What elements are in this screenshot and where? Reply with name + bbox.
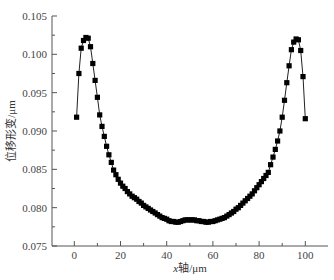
y-tick-label: 0.095 <box>22 87 47 99</box>
square-marker-icon <box>113 172 118 177</box>
square-marker-icon <box>76 71 81 76</box>
square-marker-icon <box>284 80 289 85</box>
x-tick-label: 80 <box>254 249 266 261</box>
x-tick-label: 60 <box>207 249 219 261</box>
square-marker-icon <box>106 152 111 157</box>
chart-root: 0.0750.0800.0850.0900.0950.1000.105 0204… <box>0 0 334 280</box>
square-marker-icon <box>102 134 107 139</box>
x-tick-label: 100 <box>297 249 314 261</box>
square-marker-icon <box>296 37 301 42</box>
square-marker-icon <box>111 168 116 173</box>
square-marker-icon <box>93 78 98 83</box>
square-marker-icon <box>298 48 303 53</box>
line-chart: 0.0750.0800.0850.0900.0950.1000.105 0204… <box>0 0 334 280</box>
y-tick-label: 0.100 <box>22 48 47 60</box>
square-marker-icon <box>97 112 102 117</box>
square-marker-icon <box>273 147 278 152</box>
square-marker-icon <box>104 144 109 149</box>
square-marker-icon <box>109 160 114 165</box>
square-marker-icon <box>266 170 271 175</box>
square-marker-icon <box>88 44 93 49</box>
square-marker-icon <box>287 63 292 68</box>
square-marker-icon <box>268 162 273 167</box>
y-tick-label: 0.080 <box>22 202 47 214</box>
square-marker-icon <box>270 155 275 160</box>
y-tick-label: 0.075 <box>22 240 47 252</box>
y-tick-label: 0.085 <box>22 163 47 175</box>
x-ticks: 020406080100 <box>72 241 314 261</box>
axes <box>52 16 328 246</box>
square-marker-icon <box>79 46 84 51</box>
y-tick-label: 0.090 <box>22 125 47 137</box>
y-tick-label: 0.105 <box>22 10 47 22</box>
square-marker-icon <box>282 98 287 103</box>
x-axis-title: x轴/μm <box>172 261 207 274</box>
data-series <box>74 35 308 225</box>
square-marker-icon <box>303 116 308 121</box>
square-marker-icon <box>275 138 280 143</box>
square-marker-icon <box>95 95 100 100</box>
square-marker-icon <box>280 115 285 120</box>
series-line <box>77 38 306 223</box>
x-tick-label: 40 <box>161 249 173 261</box>
square-marker-icon <box>86 36 91 41</box>
square-marker-icon <box>300 74 305 79</box>
y-axis-title: 位移形变/μm <box>4 100 17 162</box>
x-tick-label: 0 <box>72 249 78 261</box>
x-tick-label: 20 <box>115 249 127 261</box>
square-marker-icon <box>277 128 282 133</box>
square-marker-icon <box>99 124 104 129</box>
square-marker-icon <box>90 61 95 66</box>
square-marker-icon <box>289 47 294 52</box>
square-marker-icon <box>74 115 79 120</box>
x-axis-title-unit: 轴/μm <box>178 261 207 274</box>
